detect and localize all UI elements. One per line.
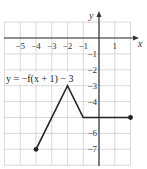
y-tick-label: −6 — [87, 128, 97, 138]
x-tick-label: −5 — [15, 41, 25, 51]
x-tick-labels: −5−4−3−2−11 — [15, 41, 117, 51]
y-tick-label: −2 — [87, 65, 97, 75]
y-tick-label: −4 — [87, 97, 97, 107]
closed-endpoint-dot — [34, 147, 39, 152]
axes: x y — [4, 10, 143, 166]
equation-text: y = −f(x + 1) − 3 — [6, 73, 74, 85]
y-tick-label: −1 — [87, 49, 97, 59]
x-tick-label: −3 — [47, 41, 57, 51]
x-axis-label: x — [137, 38, 143, 49]
y-axis-arrow-icon — [97, 11, 102, 17]
x-tick-label: 1 — [113, 41, 118, 51]
y-tick-labels: −1−2−3−4−6−7 — [87, 49, 97, 154]
y-tick-label: −3 — [87, 81, 97, 91]
x-tick-label: −2 — [63, 41, 73, 51]
x-tick-label: −4 — [31, 41, 41, 51]
equation-label: y = −f(x + 1) − 3 — [5, 72, 83, 85]
function-graph: x y −5−4−3−2−11 −1−2−3−4−6−7 y = −f(x + … — [0, 0, 147, 169]
y-tick-label: −7 — [87, 144, 97, 154]
y-axis-label: y — [88, 10, 94, 21]
closed-endpoint-dot — [128, 115, 133, 120]
